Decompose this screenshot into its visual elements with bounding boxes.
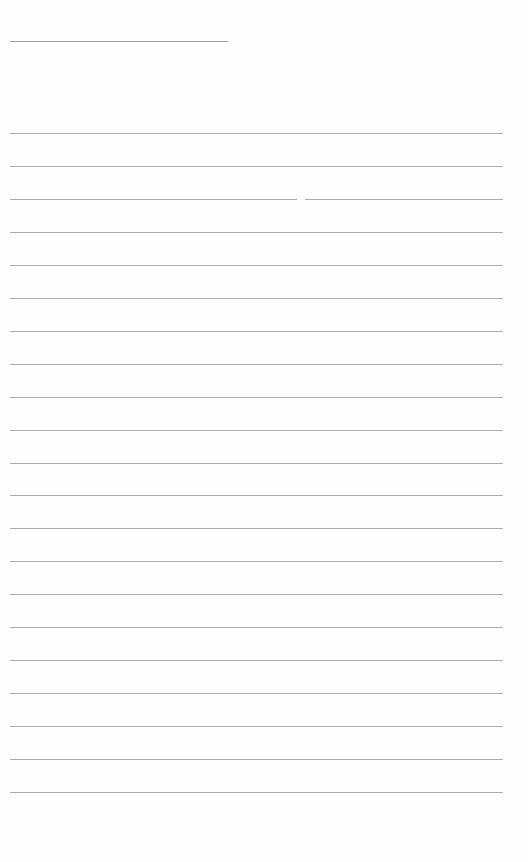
- ruled-line: [10, 166, 503, 167]
- lined-paper-page: [0, 0, 528, 862]
- ruled-line: [10, 561, 503, 562]
- ruled-line: [10, 759, 503, 760]
- ruled-line: [10, 627, 503, 628]
- ruled-line: [10, 331, 503, 332]
- ruled-line: [10, 726, 503, 727]
- ruled-line: [10, 495, 503, 496]
- ruled-line: [10, 594, 503, 595]
- ruled-line: [10, 397, 503, 398]
- ruled-line: [10, 265, 503, 266]
- ruled-line: [10, 133, 503, 134]
- ruled-lines: [0, 0, 528, 862]
- ruled-line: [10, 199, 503, 200]
- ruled-line: [10, 364, 503, 365]
- ruled-line: [10, 792, 503, 793]
- ruled-line: [10, 430, 503, 431]
- ruled-line: [10, 463, 503, 464]
- ruled-line: [10, 298, 503, 299]
- ruled-line: [10, 528, 503, 529]
- ruled-line: [10, 693, 503, 694]
- ruled-line: [10, 660, 503, 661]
- ruled-line: [10, 232, 503, 233]
